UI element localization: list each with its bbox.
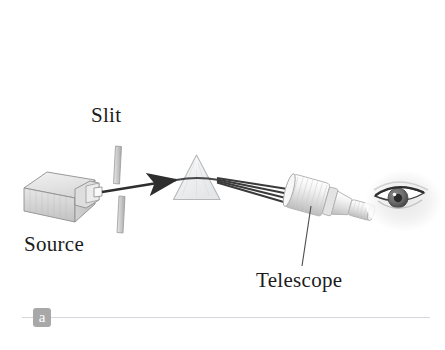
telescope-leader-line — [302, 206, 311, 266]
source-box — [24, 172, 102, 222]
label-telescope: Telescope — [256, 268, 342, 293]
eye — [365, 170, 443, 232]
optics-figure: Slit Source Telescope a — [0, 0, 445, 350]
telescope — [281, 173, 379, 230]
diagram-canvas — [0, 0, 445, 350]
prism — [174, 155, 221, 200]
incident-beam — [102, 180, 176, 192]
label-slit: Slit — [91, 103, 121, 128]
dispersed-rays — [217, 178, 294, 205]
panel-divider — [22, 317, 430, 318]
label-source: Source — [24, 232, 84, 257]
panel-label-badge: a — [33, 308, 51, 327]
